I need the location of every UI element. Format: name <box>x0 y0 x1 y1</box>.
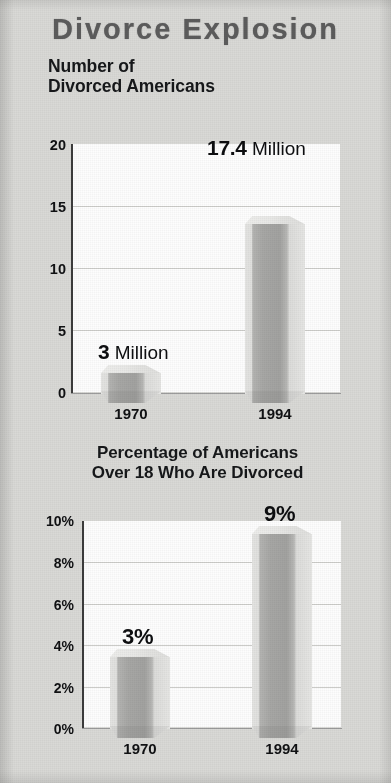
chart-1-value-label-1994: 17.4 Million <box>207 138 306 159</box>
bar-bottom-bevel <box>252 726 312 738</box>
chart-2-heading-line-1: Percentage of Americans <box>20 443 375 463</box>
bar-front-face <box>245 224 305 394</box>
chart-2-bar-1994 <box>252 526 312 729</box>
chart-1-ytick-10: 10 <box>20 262 66 276</box>
chart-2-xtick-1994: 1994 <box>242 740 322 757</box>
chart-2-ytick-2: 2% <box>16 681 74 695</box>
chart-2-ytick-10: 10% <box>16 514 74 528</box>
bar-front-face <box>101 373 161 394</box>
bar-bottom-bevel <box>110 726 170 738</box>
divorce-explosion-infographic: Divorce Explosion Number of Divorced Ame… <box>0 0 391 783</box>
chart-2-value-label-1994: 9% <box>264 504 295 525</box>
chart-1-heading-line-1: Number of <box>48 56 348 76</box>
chart-1-value-label-1970: 3 Million <box>98 342 169 363</box>
chart-2-value-label-1970: 3% <box>122 627 153 648</box>
chart-1-gridline-15 <box>73 206 340 207</box>
value-unit: Million <box>109 342 168 363</box>
chart-2-heading-line-2: Over 18 Who Are Divorced <box>20 463 375 483</box>
bar-bottom-bevel <box>101 391 161 403</box>
value-unit: Million <box>247 138 306 159</box>
chart-1-heading: Number of Divorced Americans <box>48 56 348 96</box>
chart-1-ytick-0: 0 <box>20 386 66 400</box>
chart-1-y-axis <box>71 144 73 394</box>
chart-2-ytick-8: 8% <box>16 556 74 570</box>
chart-1-bar-1994 <box>245 216 305 394</box>
chart-1-xtick-1994: 1994 <box>235 405 315 422</box>
chart-1-ytick-20: 20 <box>20 138 66 152</box>
chart-number-of-divorced-americans: Number of Divorced Americans 20 15 10 5 … <box>0 56 391 431</box>
value-number: 9% <box>264 501 295 526</box>
bar-front-face <box>252 534 312 729</box>
chart-2-ytick-6: 6% <box>16 598 74 612</box>
chart-2-bar-1970 <box>110 649 170 729</box>
chart-1-bar-1970 <box>101 365 161 394</box>
value-number: 17.4 <box>207 136 247 159</box>
chart-2-ytick-4: 4% <box>16 639 74 653</box>
chart-2-ytick-0: 0% <box>16 722 74 736</box>
chart-2-xtick-1970: 1970 <box>100 740 180 757</box>
chart-1-xtick-1970: 1970 <box>91 405 171 422</box>
chart-1-ytick-15: 15 <box>20 200 66 214</box>
chart-1-heading-line-2: Divorced Americans <box>48 76 348 96</box>
chart-percentage-of-americans-divorced: Percentage of Americans Over 18 Who Are … <box>0 443 391 783</box>
page-title: Divorce Explosion <box>0 12 391 46</box>
bar-front-face <box>110 657 170 729</box>
chart-2-heading: Percentage of Americans Over 18 Who Are … <box>20 443 375 483</box>
value-number: 3% <box>122 624 153 649</box>
bar-bottom-bevel <box>245 391 305 403</box>
value-number: 3 <box>98 340 109 363</box>
chart-1-ytick-5: 5 <box>20 324 66 338</box>
chart-2-y-axis <box>82 521 84 729</box>
